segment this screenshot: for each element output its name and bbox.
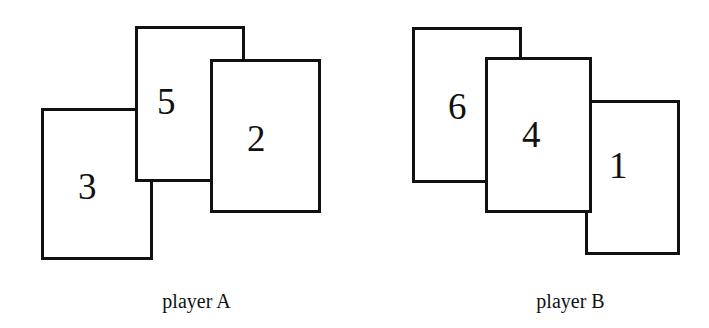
card-1-value: 1	[609, 147, 628, 184]
player-b-label: player B	[505, 291, 636, 311]
card-stacks-figure: 3 5 2 player A 6 1 4 player B	[0, 0, 709, 328]
card-2[interactable]	[210, 59, 321, 213]
card-1[interactable]	[585, 100, 680, 255]
card-3-value: 3	[78, 168, 97, 205]
card-2-value: 2	[247, 120, 266, 157]
card-5-value: 5	[157, 83, 176, 120]
player-a-label: player A	[134, 291, 259, 311]
card-4-value: 4	[522, 116, 541, 153]
card-6-value: 6	[448, 88, 467, 125]
